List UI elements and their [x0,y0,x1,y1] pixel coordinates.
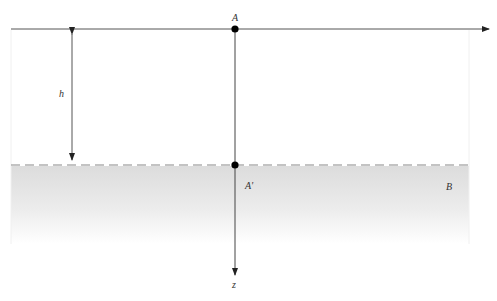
point-a-prime [231,161,238,168]
label-b: B [446,181,452,192]
label-a: A [231,12,239,23]
label-z: z [231,279,236,290]
region-b-shading [11,166,469,244]
point-a [231,25,238,32]
label-a-prime: A' [244,180,254,191]
diagram-canvas: A A' h B z [0,0,497,301]
label-h: h [59,88,64,99]
